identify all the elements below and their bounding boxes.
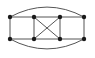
graph-vertex-v2: [32, 15, 36, 19]
graph-vertex-v3: [58, 15, 62, 19]
graph-vertex-v1: [8, 15, 12, 19]
graph-figure: [0, 0, 95, 58]
graph-edge-v5-v8: [10, 39, 84, 49]
graph-vertex-v8: [82, 37, 86, 41]
graph-canvas: [0, 0, 95, 58]
edge-layer: [10, 7, 84, 49]
graph-vertex-v7: [58, 37, 62, 41]
graph-vertex-v4: [82, 15, 86, 19]
graph-vertex-v6: [32, 37, 36, 41]
graph-vertex-v5: [8, 37, 12, 41]
graph-edge-v1-v4: [10, 7, 84, 17]
